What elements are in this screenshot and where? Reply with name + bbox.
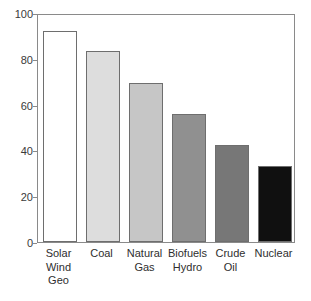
x-label-line: Coal <box>80 247 123 261</box>
bar-chart: 100 80 60 40 20 0 Solar Wind Geo Coal Na <box>0 0 311 301</box>
x-label-line: Nuclear <box>252 247 295 261</box>
x-label-line: Geo <box>37 274 80 288</box>
x-axis: Solar Wind Geo Coal Natural Gas Biofuels… <box>37 247 295 299</box>
x-label-line: Biofuels <box>166 247 209 261</box>
bar-coal <box>86 51 120 242</box>
y-tick-label-80: 80 <box>0 54 33 65</box>
bar-biofuels-hydro <box>172 114 206 242</box>
x-label-line: Solar <box>37 247 80 261</box>
x-label-line: Oil <box>209 261 252 275</box>
x-label-natural-gas: Natural Gas <box>123 247 166 274</box>
bar-crude-oil <box>215 145 249 242</box>
bar-natural-gas <box>129 83 163 242</box>
x-label-biofuels-hydro: Biofuels Hydro <box>166 247 209 274</box>
x-label-line: Natural <box>123 247 166 261</box>
x-label-line: Gas <box>123 261 166 275</box>
bar-solar-wind-geo <box>43 31 77 242</box>
plot-area <box>37 14 295 243</box>
x-label-nuclear: Nuclear <box>252 247 295 261</box>
y-axis: 100 80 60 40 20 0 <box>0 14 33 243</box>
x-label-line: Wind <box>37 261 80 275</box>
y-tick-label-0: 0 <box>0 238 33 249</box>
x-label-line: Hydro <box>166 261 209 275</box>
y-tick-label-40: 40 <box>0 146 33 157</box>
x-label-line: Crude <box>209 247 252 261</box>
y-tick-label-100: 100 <box>0 9 33 20</box>
bar-nuclear <box>258 166 292 242</box>
y-tick-label-20: 20 <box>0 192 33 203</box>
x-label-crude-oil: Crude Oil <box>209 247 252 274</box>
y-tick-label-60: 60 <box>0 100 33 111</box>
x-label-coal: Coal <box>80 247 123 261</box>
y-tick-mark-0 <box>33 243 37 244</box>
x-label-solar-wind-geo: Solar Wind Geo <box>37 247 80 288</box>
